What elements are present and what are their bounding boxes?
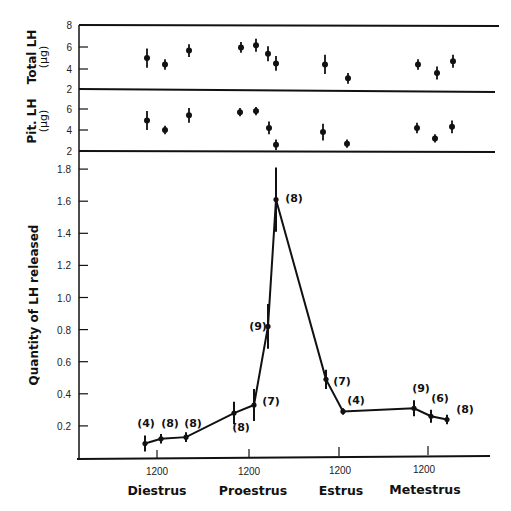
mid-data-points — [144, 107, 455, 150]
y-tick-label: 1.4 — [57, 228, 71, 239]
y-tick-label: 0.8 — [57, 325, 71, 336]
sample-size-label: (8) — [161, 417, 179, 430]
top-tick-2: 2 — [66, 84, 72, 95]
data-point — [411, 406, 416, 411]
data-point — [273, 142, 279, 148]
sample-size-label: (7) — [333, 375, 351, 388]
sample-size-label: (9) — [249, 320, 267, 333]
mid-tick-2: 2 — [66, 146, 72, 157]
data-point — [162, 61, 168, 67]
data-point — [432, 135, 438, 141]
data-point — [237, 109, 243, 115]
top-ylabel-line2: (µg) — [37, 46, 50, 69]
mid-tick-6: 6 — [66, 104, 72, 115]
data-point — [415, 61, 421, 67]
data-point — [323, 377, 328, 382]
y-tick-label: 1.0 — [57, 293, 71, 304]
data-point — [434, 70, 440, 76]
sample-size-label: (6) — [431, 392, 449, 405]
top-tick-6: 6 — [66, 42, 72, 53]
data-point — [428, 414, 433, 419]
top-tick-8: 8 — [66, 20, 72, 31]
data-point — [231, 410, 236, 415]
data-point — [253, 108, 259, 114]
y-tick-label: 1.2 — [57, 260, 71, 271]
sample-size-label: (8) — [184, 417, 202, 430]
data-point — [253, 42, 259, 48]
pit-lh-panel: 6 4 2 Pit. LH (µg) — [25, 89, 495, 157]
phase-estrus: Estrus — [319, 483, 363, 498]
x-tick-label-2: 1200 — [238, 466, 261, 477]
data-point — [186, 48, 192, 54]
top-data-points — [144, 39, 456, 84]
mid-panel-bottom-border — [79, 151, 495, 152]
sample-size-label: (8) — [285, 192, 303, 205]
data-point — [414, 125, 420, 131]
data-point — [183, 435, 188, 440]
y-tick-label: 1.8 — [57, 164, 71, 175]
main-y-ticks: 0.20.40.60.81.01.21.41.61.8 — [57, 164, 88, 432]
sample-size-label: (9) — [412, 382, 430, 395]
lh-released-series: (4)(8)(8)(8)(7)(9)(8)(7)(4)(9)(6)(8) — [137, 167, 474, 451]
y-tick-label: 1.6 — [57, 196, 71, 207]
y-tick-label: 0.6 — [57, 357, 71, 368]
data-point — [345, 75, 351, 81]
data-point — [340, 409, 345, 414]
total-lh-panel: 8 6 4 2 Total LH (µg) — [25, 20, 499, 95]
data-point — [144, 118, 150, 124]
data-point — [158, 436, 163, 441]
data-point — [238, 44, 244, 50]
data-point — [142, 441, 147, 446]
y-tick-label: 0.4 — [57, 389, 71, 400]
data-point — [344, 141, 350, 147]
data-point — [251, 402, 256, 407]
data-point — [162, 127, 168, 133]
phase-diestrus: Diestrus — [127, 483, 186, 498]
y-tick-label: 0.2 — [57, 421, 71, 432]
sample-size-label: (8) — [232, 421, 250, 434]
sample-size-label: (8) — [456, 403, 474, 416]
main-ylabel: Quantity of LH released — [27, 225, 41, 386]
top-panel-top-border — [79, 25, 499, 26]
sample-size-label: (4) — [137, 417, 155, 430]
phase-metestrus: Metestrus — [389, 482, 460, 497]
lh-figure: 8 6 4 2 Total LH (µg) 6 4 2 Pit. LH (µg)… — [0, 0, 511, 511]
data-point — [322, 61, 328, 67]
top-panel-bottom-border — [79, 89, 495, 92]
data-point — [450, 58, 456, 64]
data-point — [265, 51, 271, 57]
data-point — [273, 197, 278, 202]
mid-ylabel-line2: (µg) — [37, 110, 50, 133]
sample-size-label: (4) — [347, 394, 365, 407]
data-point — [144, 55, 150, 61]
x-tick-label-1: 1200 — [146, 466, 169, 477]
series-line — [145, 200, 447, 444]
top-tick-4: 4 — [66, 64, 72, 75]
mid-tick-4: 4 — [66, 125, 72, 136]
x-tick-label-4: 1200 — [413, 464, 436, 475]
data-point — [444, 417, 449, 422]
data-point — [320, 129, 326, 135]
data-point — [273, 60, 279, 66]
main-panel: 0.20.40.60.81.01.21.41.61.8 Quantity of … — [27, 151, 490, 498]
phase-proestrus: Proestrus — [219, 483, 287, 498]
sample-size-label: (7) — [262, 395, 280, 408]
data-point — [186, 112, 192, 118]
data-point — [266, 125, 272, 131]
data-point — [449, 124, 455, 130]
main-x-axis — [77, 456, 490, 459]
x-tick-label-3: 1200 — [329, 465, 352, 476]
